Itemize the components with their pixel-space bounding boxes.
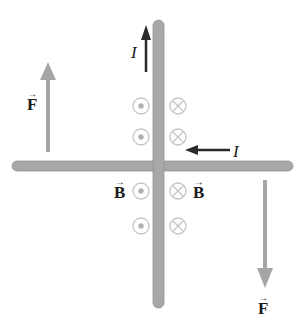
vector-arrow-icon: → [258, 293, 268, 303]
current-label-vertical: I [131, 44, 137, 61]
diagram-graphics [0, 0, 306, 319]
current-arrow-left-icon [185, 145, 230, 155]
horizontal-wire [12, 161, 293, 171]
current-label-horizontal: I [233, 143, 239, 160]
current-arrow-up-icon [141, 25, 151, 72]
vertical-wire [153, 20, 164, 308]
force-label-right: → F [258, 300, 268, 317]
force-label-left: → F [27, 96, 37, 113]
field-label-left: → B [114, 184, 125, 201]
force-arrow-up-icon [40, 62, 56, 152]
vector-arrow-icon: → [27, 89, 37, 99]
diagram-canvas: → F → F → B → B I I [0, 0, 306, 319]
field-label-right: → B [193, 184, 204, 201]
force-arrow-down-icon [257, 180, 273, 288]
vector-arrow-icon: → [193, 177, 204, 187]
vector-arrow-icon: → [114, 177, 125, 187]
